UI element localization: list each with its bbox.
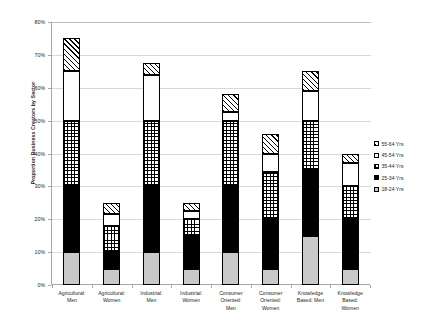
legend-swatch-icon [374, 175, 379, 180]
x-axis-tick-label: ConsumerOriented:Women [249, 290, 293, 312]
y-axis-tick-label: 0% [1, 282, 45, 288]
x-axis-tick-label: Agricultural:Men [50, 290, 94, 305]
bar-column[interactable] [262, 134, 279, 285]
bar-segment [63, 121, 80, 187]
bar-segment [222, 252, 239, 285]
bar-segment [183, 211, 200, 219]
legend-label: 25-34 Yrs [382, 175, 404, 181]
bar-column[interactable] [183, 203, 200, 285]
x-axis-tick-label: KnowledgeBased:Women [328, 290, 372, 312]
bar-segment [342, 219, 359, 268]
bar-segment [103, 214, 120, 226]
y-axis-tick-label: 20% [1, 216, 45, 222]
legend-item[interactable]: 45-54 Yrs [374, 149, 432, 160]
bar-segment [183, 269, 200, 285]
legend-item[interactable]: 25-34 Yrs [374, 172, 432, 183]
bar-segment [302, 236, 319, 285]
stacked-bar-chart: Proportion Business Creators by Sector 8… [0, 0, 432, 330]
x-axis-tick-mark [291, 285, 292, 288]
bar-segment [183, 236, 200, 269]
bar-segment [222, 121, 239, 187]
bar-column[interactable] [302, 71, 319, 285]
bar-segment [262, 172, 279, 220]
bar-segment [143, 75, 160, 121]
bar-segment [63, 38, 80, 71]
bar-column[interactable] [222, 94, 239, 285]
bar-segment [262, 134, 279, 154]
x-axis-tick-mark [92, 285, 93, 288]
x-axis-tick-mark [132, 285, 133, 288]
x-axis-tick-mark [171, 285, 172, 288]
y-axis-tick-label: 30% [1, 183, 45, 189]
bar-segment [262, 269, 279, 285]
bar-segment [103, 252, 120, 268]
bar-segment [222, 112, 239, 120]
legend: 55-64 Yrs45-54 Yrs35-44 Yrs25-34 Yrs18-2… [374, 138, 432, 195]
x-axis-tick-mark [330, 285, 331, 288]
legend-swatch-icon [374, 141, 379, 146]
bar-segment [302, 91, 319, 121]
y-axis-tick-label: 70% [1, 52, 45, 58]
bar-segment [222, 186, 239, 252]
bar-column[interactable] [63, 38, 80, 285]
bar-segment [302, 170, 319, 236]
legend-label: 45-54 Yrs [382, 152, 404, 158]
legend-swatch-icon [374, 164, 379, 169]
x-axis-tick-mark [52, 285, 53, 288]
bar-column[interactable] [342, 154, 359, 285]
bar-segment [103, 269, 120, 285]
y-axis-tick-label: 40% [1, 151, 45, 157]
bar-segment [302, 121, 319, 170]
bar-segment [342, 269, 359, 285]
legend-label: 35-44 Yrs [382, 163, 404, 169]
y-axis-tick-label: 10% [1, 249, 45, 255]
bar-segment [342, 154, 359, 164]
bar-segment [63, 71, 80, 120]
bar-segment [103, 203, 120, 215]
y-axis-tick-label: 80% [1, 19, 45, 25]
bar-segment [143, 121, 160, 187]
legend-swatch-icon [374, 187, 379, 192]
bar-column[interactable] [103, 203, 120, 285]
x-axis-tick-mark [370, 285, 371, 288]
legend-item[interactable]: 18-24 Yrs [374, 184, 432, 195]
bar-segment [302, 71, 319, 91]
bar-segment [183, 219, 200, 235]
bar-segment [143, 186, 160, 252]
legend-swatch-icon [374, 153, 379, 158]
x-axis-tick-mark [211, 285, 212, 288]
y-axis-tick-label: 60% [1, 85, 45, 91]
bar-group [52, 22, 370, 285]
legend-item[interactable]: 35-44 Yrs [374, 161, 432, 172]
bar-segment [342, 186, 359, 219]
bar-segment [183, 203, 200, 211]
bar-segment [222, 94, 239, 112]
bar-segment [143, 252, 160, 285]
bar-segment [262, 154, 279, 172]
bar-column[interactable] [143, 63, 160, 285]
bar-segment [63, 186, 80, 252]
bar-segment [103, 226, 120, 252]
bar-segment [143, 63, 160, 75]
x-axis-tick-label: Industrial:Men [129, 290, 173, 305]
legend-label: 18-24 Yrs [382, 186, 404, 192]
x-axis-tick-label: Agricultural:Women [90, 290, 134, 305]
y-axis-tick-labels: 80%70%60%50%40%30%20%10%0% [0, 22, 49, 285]
x-axis-tick-mark [251, 285, 252, 288]
y-axis-tick-label: 50% [1, 118, 45, 124]
y-axis-tick-mark [48, 285, 51, 286]
x-axis-tick-label: KnowledgeBased: Men [288, 290, 332, 305]
x-axis-tick-label: Industrial:Women [169, 290, 213, 305]
x-axis-tick-label: ConsumerOriented:Men [209, 290, 253, 312]
legend-label: 55-64 Yrs [382, 141, 404, 147]
bar-segment [63, 252, 80, 285]
bar-segment [342, 163, 359, 186]
bar-segment [262, 219, 279, 268]
legend-item[interactable]: 55-64 Yrs [374, 138, 432, 149]
x-axis-tick-labels: Agricultural:MenAgricultural:WomenIndust… [52, 290, 370, 330]
